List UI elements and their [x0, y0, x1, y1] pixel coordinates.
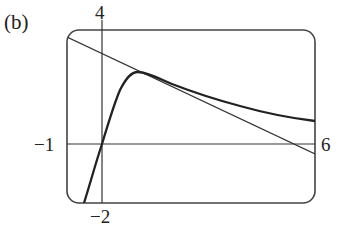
viewing-window-frame [67, 30, 315, 203]
graph-canvas [0, 0, 342, 230]
